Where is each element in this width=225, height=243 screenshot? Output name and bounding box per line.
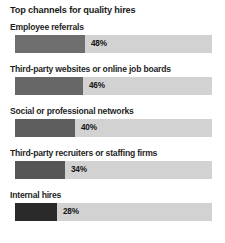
bar-label: Third-party recruiters or staffing firms [10,148,157,158]
bar-value-label: 28% [63,207,79,216]
bar-value-label: 40% [81,123,97,132]
bar-track [15,35,212,53]
bar-fill [15,35,85,53]
bar-chart-card: Top channels for quality hires Employee … [0,0,225,243]
bar-fill [15,203,57,221]
bar-label: Employee referrals [10,22,84,32]
bar-label: Social or professional networks [10,106,134,116]
bar-track [15,161,212,179]
chart-title: Top channels for quality hires [10,5,136,15]
bar-fill [15,161,65,179]
bar-fill [15,77,83,95]
bar-track [15,77,212,95]
bar-fill [15,119,75,137]
bar-label: Third-party websites or online job board… [10,64,171,74]
bar-label: Internal hires [10,190,61,200]
bar-track [15,119,212,137]
bar-value-label: 46% [89,81,105,90]
bar-value-label: 34% [71,165,87,174]
bar-value-label: 48% [91,39,107,48]
bar-track [15,203,212,221]
